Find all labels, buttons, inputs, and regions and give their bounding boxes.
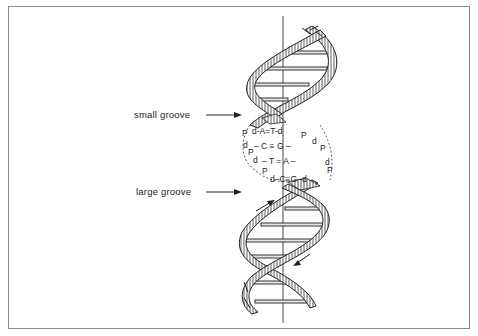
large-groove-arrow	[206, 189, 242, 195]
base-pair-ladder: P d-A=T-d P d d – C ≡ G – P P d – T = A …	[242, 126, 333, 184]
small-groove-arrow	[206, 112, 242, 118]
base-pair-row-3: – T = A –	[262, 156, 296, 166]
lower-strand-back	[242, 184, 329, 314]
strand-glyph-right: P	[320, 143, 326, 153]
strand-glyph-left: P	[262, 166, 268, 176]
strand-glyph-right: d	[312, 136, 317, 146]
small-groove-label: small groove	[134, 109, 190, 120]
upper-strand-front	[250, 26, 337, 128]
strand-glyph-right: P	[301, 130, 307, 140]
large-groove-label: large groove	[136, 186, 191, 197]
strand-glyph-left: P	[242, 128, 248, 138]
base-pair-row-1: d-A=T-d	[252, 126, 283, 136]
strand-glyph-left: d	[253, 155, 258, 165]
base-pair-row-2: – C ≡ G –	[254, 141, 291, 151]
base-pair-row-4: d–C≡G–d	[270, 174, 307, 184]
strand-glyph-right: P	[327, 165, 333, 175]
dna-helix-diagram: small groove large groove P d-A=T-d P d …	[0, 0, 478, 336]
